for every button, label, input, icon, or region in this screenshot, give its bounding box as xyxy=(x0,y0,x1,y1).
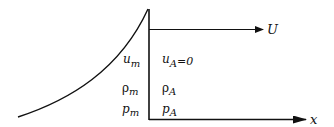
right-state-labels: uA=0 ρA pA xyxy=(162,52,193,118)
svg-text:pm: pm xyxy=(122,102,139,118)
svg-text:ρm: ρm xyxy=(122,81,139,97)
svg-text:um: um xyxy=(123,52,140,69)
svg-text:ρA: ρA xyxy=(162,81,176,97)
svg-text:pA: pA xyxy=(162,102,177,118)
left-state-labels: um ρm pm xyxy=(122,52,140,118)
x-axis-label: x xyxy=(310,112,318,127)
svg-text:uA=0: uA=0 xyxy=(162,52,193,69)
velocity-label: U xyxy=(267,22,279,37)
shock-diagram: U x um ρm pm uA=0 ρA pA xyxy=(0,0,334,127)
